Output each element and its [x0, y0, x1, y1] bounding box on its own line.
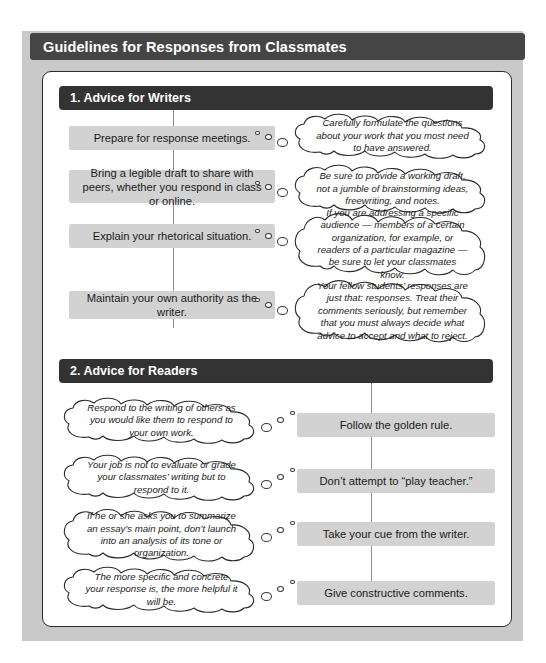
thought-dot-medium — [277, 586, 284, 592]
thought-dot-large — [261, 423, 272, 432]
section-header-readers: 2. Advice for Readers — [59, 359, 493, 383]
section-header-writers: 1. Advice for Writers — [59, 86, 493, 110]
thought-dot-small — [255, 298, 260, 302]
thought-bubble: The more specific and concrete your resp… — [59, 566, 264, 613]
advice-box: Don’t attempt to “play teacher.” — [297, 469, 495, 493]
thought-dot-large — [261, 533, 272, 542]
advice-box: Take your cue from the writer. — [297, 522, 495, 546]
thought-bubble: Your fellow students’ responses are just… — [290, 279, 495, 343]
advice-box: Bring a legible draft to share with peer… — [69, 170, 275, 203]
figure-title-bar: Guidelines for Responses from Classmates — [30, 33, 525, 60]
advice-box: Give constructive comments. — [297, 581, 495, 605]
thought-dot-medium — [277, 527, 284, 533]
figure-inner-panel: 1. Advice for Writers Prepare for respon… — [42, 71, 512, 627]
section-header-label-writers: 1. Advice for Writers — [59, 91, 191, 105]
thought-dot-large — [277, 306, 288, 315]
advice-box: Explain your rhetorical situation. — [69, 224, 275, 248]
thought-dot-small — [255, 229, 260, 233]
thought-dot-large — [277, 237, 288, 246]
thought-dot-medium — [265, 302, 272, 308]
thought-dot-small — [290, 411, 295, 415]
thought-bubble-text: The more specific and concrete your resp… — [59, 566, 264, 613]
thought-dot-large — [277, 188, 288, 197]
thought-bubble-text: Respond to the writing of others as you … — [59, 397, 264, 444]
thought-bubble: If you are addressing a specific audienc… — [290, 212, 495, 276]
thought-bubble-text: Carefully formulate the questions about … — [290, 113, 495, 159]
thought-bubble: If he or she asks you to summarize an es… — [59, 508, 264, 562]
section-header-label-readers: 2. Advice for Readers — [59, 364, 197, 378]
thought-bubble-text: If you are addressing a specific audienc… — [290, 212, 495, 276]
thought-dot-small — [290, 521, 295, 525]
thought-dot-medium — [277, 474, 284, 480]
thought-dot-small — [255, 181, 260, 185]
thought-dot-medium — [277, 417, 284, 423]
advice-box: Maintain your own authority as the write… — [69, 291, 275, 319]
thought-bubble-text: If he or she asks you to summarize an es… — [59, 508, 264, 562]
thought-bubble: Your job is not to evaluate or grade you… — [59, 454, 264, 501]
thought-dot-medium — [265, 233, 272, 239]
advice-box: Prepare for response meetings. — [69, 126, 275, 150]
thought-dot-large — [261, 592, 272, 601]
thought-dot-medium — [265, 184, 272, 190]
thought-dot-small — [255, 131, 260, 135]
thought-dot-large — [277, 138, 288, 147]
thought-dot-large — [261, 480, 272, 489]
thought-dot-medium — [265, 134, 272, 140]
thought-bubble-text: Your job is not to evaluate or grade you… — [59, 454, 264, 501]
thought-bubble: Respond to the writing of others as you … — [59, 397, 264, 444]
thought-dot-small — [290, 468, 295, 472]
advice-box: Follow the golden rule. — [297, 413, 495, 437]
thought-bubble: Carefully formulate the questions about … — [290, 113, 495, 159]
figure-title: Guidelines for Responses from Classmates — [30, 39, 347, 55]
thought-bubble-text: Your fellow students’ responses are just… — [290, 279, 495, 343]
thought-dot-small — [290, 580, 295, 584]
